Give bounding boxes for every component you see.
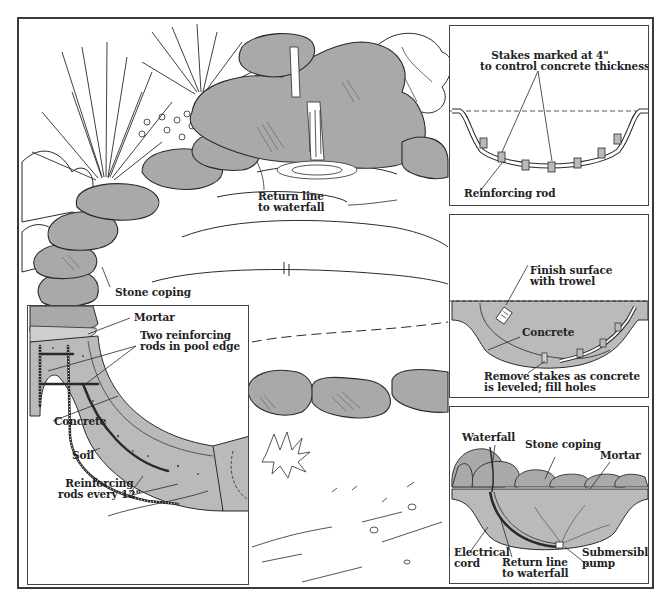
inset-finish: Finish surface with trowel Concrete Remo… <box>449 214 649 398</box>
label-reinforcing-rods-2: rods every 12" <box>58 489 141 500</box>
label-finish-2: with trowel <box>530 276 612 287</box>
label-return-line-2: to waterfall <box>258 202 325 213</box>
label-reinforcing-rods: Reinforcing rods every 12" <box>58 478 141 500</box>
label-stakes-2: to control concrete thickness <box>480 61 620 72</box>
label-concrete: Concrete <box>54 416 106 427</box>
label-return-line: Return line to waterfall <box>258 191 325 213</box>
label-stone-coping-inset: Stone coping <box>525 439 601 450</box>
label-stakes: Stakes marked at 4" to control concrete … <box>480 50 620 72</box>
label-remove-stakes-2: is leveled; fill holes <box>484 382 640 393</box>
label-remove-stakes: Remove stakes as concrete is leveled; fi… <box>484 371 640 393</box>
inset-stakes: Stakes marked at 4" to control concrete … <box>449 25 649 206</box>
label-return-line-inset: Return line to waterfall <box>502 557 569 579</box>
label-soil: Soil <box>72 450 94 461</box>
label-waterfall: Waterfall <box>462 432 515 443</box>
label-return-line-inset-2: to waterfall <box>502 568 569 579</box>
label-finish: Finish surface with trowel <box>530 265 612 287</box>
label-reinforcing-rod: Reinforcing rod <box>464 188 555 199</box>
label-mortar: Mortar <box>134 312 175 323</box>
label-stone-coping: Stone coping <box>115 287 191 298</box>
label-two-rods-2: rods in pool edge <box>140 341 240 352</box>
label-two-rods: Two reinforcing rods in pool edge <box>140 330 240 352</box>
diagram-frame: Return line to waterfall Stone coping <box>17 17 654 589</box>
label-submersible-pump: Submersible pump <box>582 547 649 569</box>
label-mortar-inset: Mortar <box>600 450 641 461</box>
inset-completed-pool: Waterfall Stone coping Mortar Electrical… <box>449 406 649 584</box>
label-concrete-inset: Concrete <box>522 327 574 338</box>
inset-pool-edge-cross-section: Mortar Two reinforcing rods in pool edge… <box>27 305 249 585</box>
label-submersible-pump-2: pump <box>582 558 649 569</box>
